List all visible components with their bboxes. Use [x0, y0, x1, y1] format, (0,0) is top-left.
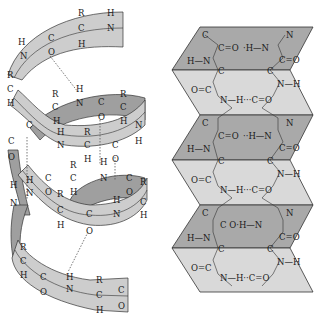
svg-text:H: H — [107, 8, 114, 18]
svg-text:·H—N: ·H—N — [243, 43, 270, 53]
svg-text:N: N — [135, 120, 143, 130]
svg-text:C O·H—N: C O·H—N — [220, 220, 263, 230]
svg-text:H—N: H—N — [187, 233, 211, 243]
svg-text:R: R — [78, 8, 85, 18]
svg-text:H: H — [113, 195, 120, 205]
svg-text:H: H — [84, 154, 91, 164]
svg-text:H: H — [66, 272, 73, 282]
svg-text:O: O — [45, 187, 52, 197]
svg-text:C: C — [7, 84, 14, 94]
svg-text:C: C — [98, 97, 105, 107]
svg-text:R: R — [7, 70, 14, 80]
svg-text:C: C — [120, 102, 127, 112]
svg-text:C: C — [26, 120, 33, 130]
svg-text:C: C — [86, 209, 93, 219]
svg-text:C: C — [267, 156, 274, 166]
protein-secondary-structure-diagram: R H C N H H N C O R C H C O R H C N C O … — [0, 0, 324, 322]
svg-text:N: N — [107, 23, 115, 33]
svg-text:C: C — [52, 102, 59, 112]
svg-text:H—N: H—N — [187, 56, 211, 66]
svg-text:N—H: N—H — [277, 257, 300, 267]
svg-text:C: C — [202, 208, 209, 218]
svg-text:N: N — [57, 140, 65, 150]
svg-text:C: C — [8, 136, 15, 146]
svg-text:R: R — [57, 189, 64, 199]
svg-text:R: R — [84, 127, 91, 137]
helix-left-chain-labels: R C H C O — [7, 70, 15, 162]
svg-text:O: O — [48, 47, 55, 57]
svg-text:H: H — [140, 210, 147, 220]
alpha-helix: R H C N H H N C O R C H C O R H C N C O … — [7, 8, 147, 315]
svg-text:C: C — [57, 205, 64, 215]
svg-text:C: C — [202, 118, 209, 128]
svg-text:N: N — [76, 98, 84, 108]
svg-text:C: C — [45, 173, 52, 183]
svg-text:N: N — [286, 208, 294, 218]
svg-text:H: H — [78, 39, 85, 49]
svg-text:N: N — [286, 118, 294, 128]
svg-text:C=O: C=O — [279, 143, 300, 153]
svg-text:C: C — [267, 244, 274, 254]
svg-text:H: H — [57, 127, 64, 137]
svg-text:C: C — [40, 272, 47, 282]
svg-text:C: C — [20, 256, 27, 266]
svg-text:R: R — [140, 177, 147, 187]
svg-text:C: C — [96, 290, 103, 300]
svg-text:H: H — [18, 37, 25, 47]
svg-text:O: O — [126, 187, 133, 197]
svg-text:N—H: N—H — [277, 169, 300, 179]
svg-text:H: H — [57, 220, 64, 230]
svg-text:N—H: N—H — [277, 79, 300, 89]
svg-text:O: O — [8, 152, 15, 162]
svg-text:H: H — [26, 175, 33, 185]
svg-text:N—H···C=O: N—H···C=O — [220, 185, 272, 195]
svg-text:N: N — [10, 198, 18, 208]
svg-text:C: C — [218, 244, 225, 254]
svg-text:O: O — [40, 287, 47, 297]
svg-text:N: N — [26, 188, 34, 198]
svg-text:C: C — [126, 173, 133, 183]
svg-text:C: C — [218, 66, 225, 76]
svg-text:O=C: O=C — [191, 85, 212, 95]
svg-text:O=C: O=C — [191, 263, 212, 273]
svg-text:O: O — [118, 301, 125, 311]
svg-text:C: C — [202, 30, 209, 40]
svg-text:C: C — [70, 173, 77, 183]
svg-text:H: H — [96, 305, 103, 315]
svg-text:C: C — [267, 66, 274, 76]
svg-text:C=O: C=O — [218, 43, 239, 53]
svg-text:C: C — [78, 23, 85, 33]
svg-text:H: H — [135, 136, 142, 146]
svg-text:N: N — [66, 284, 74, 294]
svg-text:N—H···C=O: N—H···C=O — [220, 95, 272, 105]
svg-text:R: R — [120, 89, 127, 99]
svg-text:C=O: C=O — [279, 232, 300, 242]
svg-text:H: H — [10, 180, 17, 190]
svg-text:R: R — [70, 160, 77, 170]
svg-text:O: O — [98, 112, 105, 122]
svg-text:C: C — [118, 285, 125, 295]
svg-text:H: H — [70, 187, 77, 197]
svg-text:H: H — [120, 116, 127, 126]
svg-text:N: N — [100, 173, 108, 183]
svg-text:O=C: O=C — [191, 175, 212, 185]
svg-text:H: H — [20, 270, 27, 280]
svg-text:C: C — [140, 197, 147, 207]
svg-text:H—N: H—N — [187, 144, 211, 154]
svg-text:C: C — [84, 140, 91, 150]
svg-text:O: O — [86, 226, 93, 236]
svg-text:N: N — [113, 209, 121, 219]
svg-text:C=O: C=O — [279, 55, 300, 65]
svg-text:R: R — [96, 275, 103, 285]
svg-text:R: R — [52, 89, 59, 99]
svg-text:N: N — [286, 30, 294, 40]
svg-text:C=O: C=O — [218, 131, 239, 141]
beta-pleated-sheet: C C=O ·H—N N H—N C C=O C O=C N—H···C=O N… — [172, 27, 313, 292]
svg-text:R: R — [20, 242, 27, 252]
svg-text:C: C — [48, 33, 55, 43]
svg-text:N: N — [20, 51, 28, 61]
svg-text:C: C — [218, 156, 225, 166]
svg-text:H: H — [53, 116, 60, 126]
svg-text:H: H — [7, 98, 14, 108]
svg-text:H: H — [100, 157, 107, 167]
